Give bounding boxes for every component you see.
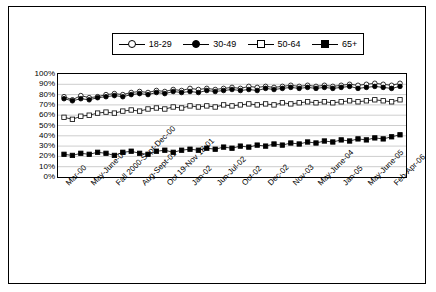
y-tick-label: 40% xyxy=(15,131,55,140)
legend-marker-square-open-icon xyxy=(248,44,274,45)
x-axis-tick-labels: Mar-00May-June-00Fall 2000-Sept-Dec-00Au… xyxy=(57,179,407,279)
y-tick-label: 0% xyxy=(15,172,55,181)
y-tick-label: 10% xyxy=(15,162,55,171)
y-tick-label: 30% xyxy=(15,141,55,150)
legend-label: 65+ xyxy=(342,39,357,49)
legend-label: 18-29 xyxy=(149,39,172,49)
legend-item-65plus: 65+ xyxy=(312,39,357,49)
legend-label: 30-49 xyxy=(213,39,236,49)
y-tick-label: 50% xyxy=(15,121,55,130)
chart-frame: 18-29 30-49 50-64 65+ 100%90%80%70%60%50… xyxy=(8,6,426,284)
legend-item-18-29: 18-29 xyxy=(119,39,172,49)
legend-marker-circle-open-icon xyxy=(119,44,145,45)
y-tick-label: 70% xyxy=(15,100,55,109)
series-50-64 xyxy=(62,98,402,122)
y-tick-label: 60% xyxy=(15,110,55,119)
legend-label: 50-64 xyxy=(278,39,301,49)
y-tick-label: 20% xyxy=(15,151,55,160)
legend-marker-circle-filled-icon xyxy=(183,44,209,45)
legend-marker-square-filled-icon xyxy=(312,44,338,45)
legend-item-50-64: 50-64 xyxy=(248,39,301,49)
legend-item-30-49: 30-49 xyxy=(183,39,236,49)
y-tick-label: 80% xyxy=(15,90,55,99)
y-tick-label: 90% xyxy=(15,79,55,88)
chart-legend: 18-29 30-49 50-64 65+ xyxy=(112,33,364,55)
y-tick-label: 100% xyxy=(15,69,55,78)
